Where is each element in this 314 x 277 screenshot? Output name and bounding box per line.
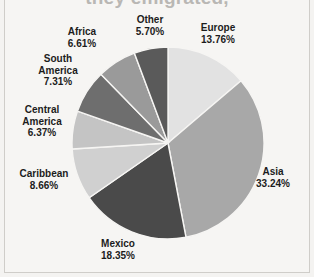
pie-label-other-value: 5.70%: [124, 26, 176, 38]
pie-label-other-name: Other: [137, 14, 164, 25]
pie-chart: [72, 47, 264, 239]
pie-label-caribbean-value: 8.66%: [8, 180, 80, 192]
pie-label-south-america-name: South: [44, 53, 72, 64]
pie-slice-group: [72, 47, 264, 239]
pie-label-other: Other 5.70%: [124, 14, 176, 37]
pie-label-europe-name: Europe: [201, 22, 235, 33]
pie-label-central-america-value: 6.37%: [10, 127, 74, 139]
chart-screenshot: they emigrated, Other 5.70% Europe 13.76…: [0, 0, 314, 277]
pie-label-central-america-name2: America: [10, 116, 74, 128]
pie-label-caribbean-name: Caribbean: [20, 168, 69, 179]
pie-label-asia-name: Asia: [262, 166, 283, 177]
pie-label-caribbean: Caribbean 8.66%: [8, 168, 80, 191]
pie-label-south-america: South America 7.31%: [26, 53, 90, 88]
pie-label-mexico: Mexico 18.35%: [88, 238, 148, 261]
pie-label-europe-value: 13.76%: [188, 34, 248, 46]
pie-label-africa-value: 6.61%: [56, 38, 108, 50]
pie-label-africa: Africa 6.61%: [56, 26, 108, 49]
pie-chart-svg: [72, 47, 264, 239]
pie-label-africa-name: Africa: [68, 26, 96, 37]
pie-label-asia-value: 33.24%: [244, 178, 302, 190]
pie-label-central-america: Central America 6.37%: [10, 104, 74, 139]
pie-label-south-america-name2: America: [26, 65, 90, 77]
pie-label-asia: Asia 33.24%: [244, 166, 302, 189]
chart-title: they emigrated,: [0, 0, 314, 9]
pie-label-south-america-value: 7.31%: [26, 76, 90, 88]
pie-label-central-america-name: Central: [25, 104, 59, 115]
pie-label-mexico-value: 18.35%: [88, 250, 148, 262]
pie-label-europe: Europe 13.76%: [188, 22, 248, 45]
pie-label-mexico-name: Mexico: [101, 238, 135, 249]
chart-title-clipped: they emigrated,: [0, 0, 314, 11]
